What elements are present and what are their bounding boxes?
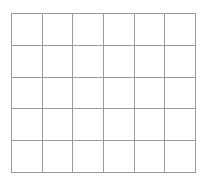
grid-cell-r5-c2 [42,140,73,172]
grid-cell-r1-c3 [72,13,103,45]
grid-cell-r2-c3 [72,45,103,77]
grid-cell-r4-c5 [134,108,165,140]
grid-cell-r3-c5 [134,77,165,109]
grid-cell-r5-c6 [164,140,195,172]
grid-cell-r3-c2 [42,77,73,109]
grid-cell-r3-c1 [11,77,42,109]
grid-cell-r2-c5 [134,45,165,77]
grid-cell-r4-c4 [103,108,134,140]
grid-cell-r5-c3 [72,140,103,172]
grid-cell-r4-c1 [11,108,42,140]
grid-cell-r3-c6 [164,77,195,109]
grid-cell-r2-c2 [42,45,73,77]
grid-cell-r1-c2 [42,13,73,45]
grid-cell-r2-c4 [103,45,134,77]
grid-cell-r1-c6 [164,13,195,45]
grid-cell-r4-c3 [72,108,103,140]
grid-cell-r5-c1 [11,140,42,172]
grid-cell-r4-c6 [164,108,195,140]
grid-cell-r2-c1 [11,45,42,77]
grid-cell-r3-c4 [103,77,134,109]
grid-cell-r5-c4 [103,140,134,172]
grid-cell-r5-c5 [134,140,165,172]
grid-cell-r1-c5 [134,13,165,45]
empty-grid [11,13,196,173]
grid-cell-r4-c2 [42,108,73,140]
grid-cell-r3-c3 [72,77,103,109]
grid-cell-r1-c1 [11,13,42,45]
grid-cell-r2-c6 [164,45,195,77]
grid-cell-r1-c4 [103,13,134,45]
